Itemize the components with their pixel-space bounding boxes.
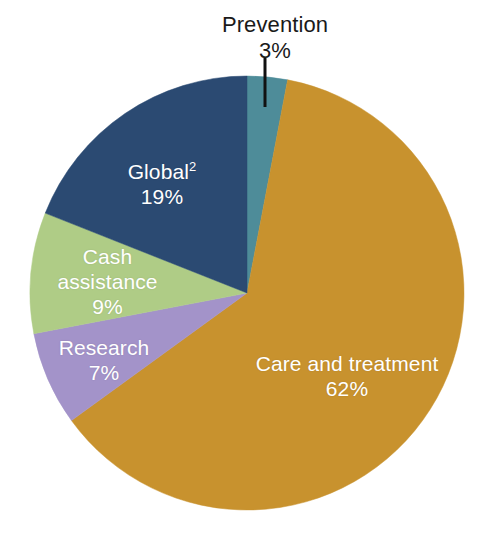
pie-slice-group [30, 76, 464, 510]
pie-chart: Prevention 3% Care and treatment 62% Glo… [0, 0, 489, 534]
pie-chart-svg [0, 0, 489, 534]
